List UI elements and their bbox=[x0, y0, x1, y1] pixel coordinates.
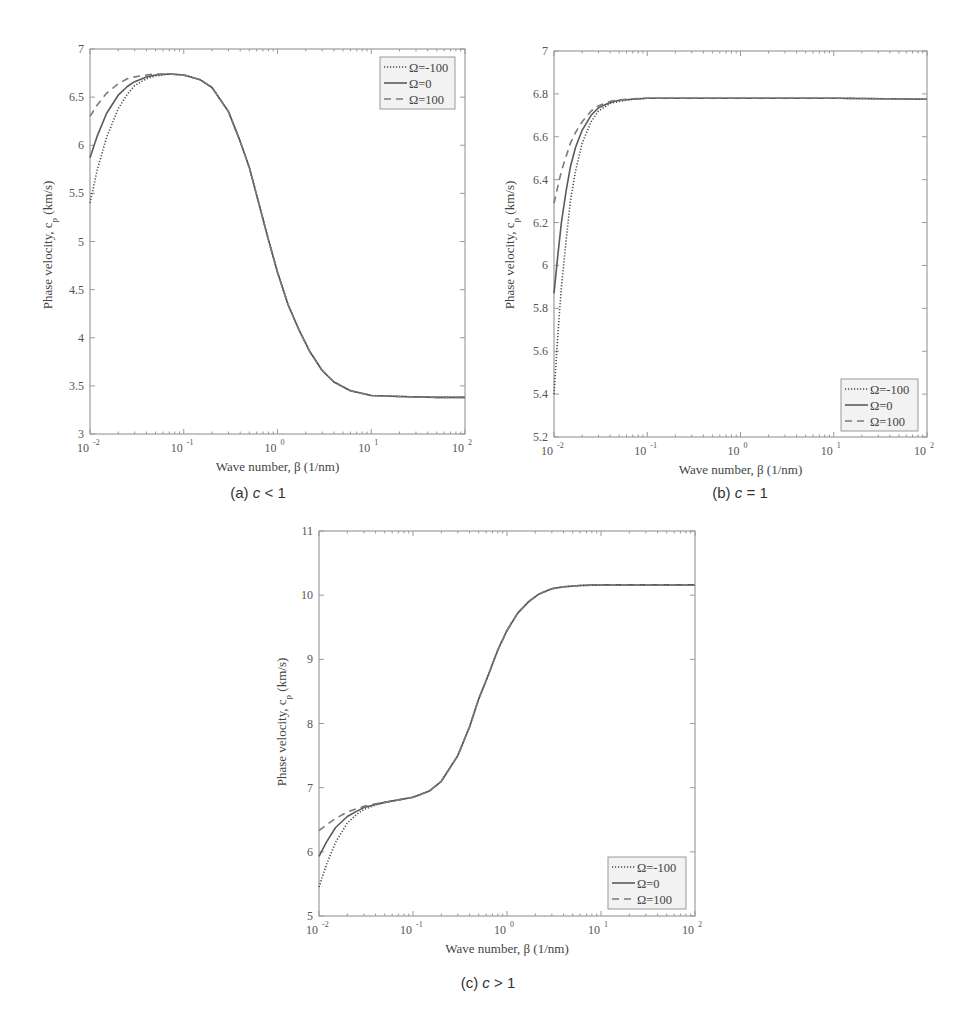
legend-entry: Ω=100 bbox=[409, 93, 444, 107]
x-tick-label: 10 bbox=[452, 441, 464, 455]
x-tick-label: 10 bbox=[821, 444, 833, 458]
x-axis-label: Wave number, β (1/nm) bbox=[445, 941, 568, 956]
x-tick-exponent: -1 bbox=[650, 441, 657, 450]
legend-entry: Ω=0 bbox=[870, 399, 893, 413]
y-tick-label: 10 bbox=[301, 588, 313, 602]
series-dashed-line bbox=[554, 98, 927, 203]
legend-entry: Ω=-100 bbox=[409, 61, 448, 75]
figure: 10-210-1100101102Wave number, β (1/nm)33… bbox=[0, 0, 976, 1028]
x-axis-label: Wave number, β (1/nm) bbox=[679, 462, 802, 477]
panel-caption: (b) c = 1 bbox=[712, 484, 767, 501]
y-tick-label: 7 bbox=[542, 44, 548, 58]
y-tick-label: 5 bbox=[307, 909, 313, 923]
y-tick-label: 6.5 bbox=[69, 90, 84, 104]
legend-entry: Ω=-100 bbox=[637, 861, 676, 875]
x-tick-label: 10 bbox=[914, 444, 926, 458]
x-axis-label: Wave number, β (1/nm) bbox=[216, 459, 339, 474]
x-tick-exponent: -2 bbox=[557, 441, 564, 450]
y-tick-label: 5.4 bbox=[533, 387, 548, 401]
x-tick-exponent: 0 bbox=[281, 438, 285, 447]
panel-caption: (a) c < 1 bbox=[230, 484, 285, 501]
panel-c: 10-210-1100101102Wave number, β (1/nm)56… bbox=[274, 524, 702, 991]
x-tick-exponent: -2 bbox=[93, 438, 100, 447]
y-tick-label: 6.8 bbox=[533, 87, 548, 101]
series-solid-line bbox=[319, 585, 695, 856]
x-tick-exponent: 2 bbox=[468, 438, 472, 447]
x-tick-label: 10 bbox=[77, 441, 89, 455]
x-tick-label: 10 bbox=[682, 923, 694, 937]
x-tick-label: 10 bbox=[358, 441, 370, 455]
y-tick-label: 8 bbox=[307, 717, 313, 731]
y-tick-label: 6.6 bbox=[533, 130, 548, 144]
series-group bbox=[554, 98, 927, 394]
legend-entry: Ω=100 bbox=[637, 893, 672, 907]
series-group bbox=[319, 585, 695, 887]
x-tick-exponent: 2 bbox=[698, 920, 702, 929]
y-tick-label: 5.8 bbox=[533, 301, 548, 315]
legend: Ω=-100Ω=0Ω=100 bbox=[608, 857, 686, 909]
y-tick-label: 5.6 bbox=[533, 344, 548, 358]
y-tick-label: 6 bbox=[542, 258, 548, 272]
legend-entry: Ω=0 bbox=[637, 877, 660, 891]
panel-a: 10-210-1100101102Wave number, β (1/nm)33… bbox=[40, 42, 472, 501]
y-tick-label: 7 bbox=[78, 42, 84, 56]
y-tick-label: 3.5 bbox=[69, 379, 84, 393]
legend: Ω=-100Ω=0Ω=100 bbox=[841, 379, 918, 431]
series-group bbox=[90, 74, 465, 397]
y-tick-label: 5 bbox=[78, 235, 84, 249]
legend: Ω=-100Ω=0Ω=100 bbox=[380, 57, 455, 109]
x-tick-label: 10 bbox=[400, 923, 412, 937]
series-solid-line bbox=[554, 98, 927, 293]
y-tick-label: 7 bbox=[307, 781, 313, 795]
y-axis-label: Phase velocity, cp (km/s) bbox=[502, 181, 521, 310]
y-tick-label: 5.5 bbox=[69, 186, 84, 200]
y-axis-label: Phase velocity, cp (km/s) bbox=[274, 658, 293, 787]
x-tick-label: 10 bbox=[634, 444, 646, 458]
series-dotted-line bbox=[90, 74, 465, 397]
series-dashed-line bbox=[319, 585, 695, 831]
x-tick-label: 10 bbox=[541, 444, 553, 458]
y-tick-label: 6 bbox=[307, 845, 313, 859]
y-tick-label: 11 bbox=[301, 524, 313, 538]
x-tick-label: 10 bbox=[171, 441, 183, 455]
y-tick-label: 5.2 bbox=[533, 430, 548, 444]
x-tick-exponent: -1 bbox=[187, 438, 194, 447]
panel-caption: (c) c > 1 bbox=[461, 974, 516, 991]
y-tick-label: 3 bbox=[78, 427, 84, 441]
x-tick-exponent: 1 bbox=[374, 438, 378, 447]
x-tick-label: 10 bbox=[265, 441, 277, 455]
x-tick-exponent: -1 bbox=[416, 920, 423, 929]
y-tick-label: 4.5 bbox=[69, 283, 84, 297]
series-dotted-line bbox=[554, 98, 927, 394]
x-tick-exponent: 1 bbox=[604, 920, 608, 929]
y-tick-label: 6.2 bbox=[533, 216, 548, 230]
y-tick-label: 4 bbox=[78, 331, 84, 345]
x-tick-exponent: 1 bbox=[837, 441, 841, 450]
legend-entry: Ω=-100 bbox=[870, 383, 909, 397]
series-solid-line bbox=[90, 74, 465, 397]
x-tick-exponent: 0 bbox=[510, 920, 514, 929]
series-dashed-line bbox=[90, 74, 465, 397]
x-tick-label: 10 bbox=[588, 923, 600, 937]
panel-b: 10-210-1100101102Wave number, β (1/nm)5.… bbox=[502, 44, 934, 501]
x-tick-exponent: 0 bbox=[744, 441, 748, 450]
x-tick-label: 10 bbox=[728, 444, 740, 458]
y-tick-label: 6 bbox=[78, 138, 84, 152]
x-tick-label: 10 bbox=[494, 923, 506, 937]
legend-entry: Ω=100 bbox=[870, 415, 905, 429]
x-tick-exponent: 2 bbox=[930, 441, 934, 450]
y-tick-label: 9 bbox=[307, 652, 313, 666]
x-tick-label: 10 bbox=[306, 923, 318, 937]
x-tick-exponent: -2 bbox=[322, 920, 329, 929]
y-tick-label: 6.4 bbox=[533, 173, 548, 187]
y-axis-label: Phase velocity, cp (km/s) bbox=[40, 181, 59, 310]
legend-entry: Ω=0 bbox=[409, 77, 432, 91]
